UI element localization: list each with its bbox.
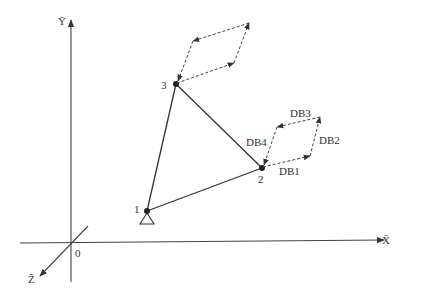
node-3-label: 3 bbox=[161, 80, 167, 91]
db2-label: DB2 bbox=[319, 135, 340, 146]
node-2-label: 2 bbox=[258, 174, 264, 185]
origin-label: 0 bbox=[75, 248, 81, 259]
db3-label: DB3 bbox=[290, 108, 311, 119]
node-1-label: 1 bbox=[134, 204, 140, 215]
node-1 bbox=[144, 208, 150, 214]
x-axis-label: X̄ bbox=[382, 235, 390, 246]
member-1-2 bbox=[147, 168, 262, 211]
member-3-2 bbox=[176, 84, 262, 168]
pin-support-icon bbox=[140, 213, 154, 224]
node-2 bbox=[259, 165, 265, 171]
db4-label: DB4 bbox=[246, 137, 267, 148]
node-2-dof-arrows bbox=[263, 117, 320, 167]
z-axis-label: Z̄ bbox=[28, 274, 35, 285]
y-axis-label: Ȳ bbox=[58, 16, 66, 27]
member-1-3 bbox=[147, 84, 176, 211]
node-3-dof-arrows bbox=[177, 23, 249, 83]
db1-label: DB1 bbox=[279, 166, 300, 177]
frame-diagram bbox=[0, 0, 435, 300]
node-3 bbox=[173, 81, 179, 87]
